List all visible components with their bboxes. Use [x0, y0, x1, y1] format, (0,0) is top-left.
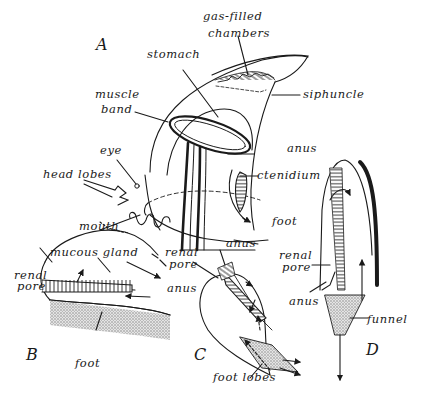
label-funnel: funnel [367, 314, 408, 325]
line-drawing [0, 0, 425, 397]
label-chambers: chambers [208, 28, 270, 39]
label-mucous-gland: mucous gland [50, 247, 139, 258]
label-foot-b: foot [75, 358, 100, 369]
label-gas-filled: gas-filled [203, 11, 262, 22]
label-anus-d: anus [289, 296, 319, 307]
label-pore-d: pore [282, 262, 311, 273]
panel-label-a: A [96, 35, 108, 54]
label-anus-a: anus [287, 143, 317, 154]
label-mouth: mouth [79, 221, 119, 232]
label-head-lobes: head lobes [43, 169, 112, 180]
label-stomach: stomach [147, 49, 200, 60]
label-foot-lobes: foot lobes [213, 372, 276, 383]
label-eye: eye [100, 145, 122, 156]
label-muscle: muscle [95, 89, 140, 100]
label-siphuncle: siphuncle [303, 89, 365, 100]
panel-label-d: D [366, 340, 379, 359]
label-ctenidium: ctenidium [257, 170, 321, 181]
label-pore-c: pore [169, 259, 198, 270]
panel-label-b: B [26, 345, 38, 364]
label-pore-b: pore [17, 281, 46, 292]
panel-label-c: C [194, 345, 206, 364]
label-band: band [101, 104, 132, 115]
label-foot-a: foot [272, 216, 297, 227]
label-anus-b: anus [167, 283, 197, 294]
mollusc-anatomy-figure: A B C D gas-filled chambers stomach siph… [0, 0, 425, 397]
label-anus-c: anus [226, 238, 256, 249]
